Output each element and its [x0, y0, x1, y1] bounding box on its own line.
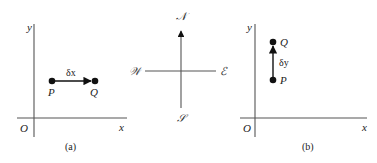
- panel-a-x-label: x: [118, 121, 124, 133]
- panel-b-p-label: P: [279, 74, 287, 86]
- diagram-canvas: y O x δx P Q (a) 𝒩 𝒲 ℰ 𝒮 y O x δy P Q (b…: [0, 0, 377, 163]
- compass-west-label: 𝒲: [129, 65, 143, 78]
- panel-b-origin-label: O: [243, 122, 251, 134]
- panel-b-caption: (b): [302, 141, 314, 153]
- panel-b-point-p: [270, 77, 277, 84]
- panel-b: y O x δy P Q (b): [240, 21, 367, 153]
- panel-a-vector-label: δx: [66, 67, 76, 78]
- compass: 𝒩 𝒲 ℰ 𝒮: [129, 10, 228, 125]
- panel-a-caption: (a): [65, 141, 76, 153]
- panel-a: y O x δx P Q (a): [17, 21, 127, 153]
- panel-b-x-label: x: [361, 121, 367, 133]
- compass-south-label: 𝒮: [177, 112, 189, 125]
- panel-b-point-q: [270, 39, 277, 46]
- panel-b-y-label: y: [246, 21, 252, 33]
- panel-a-point-q: [92, 78, 99, 85]
- panel-a-y-label: y: [26, 21, 32, 33]
- panel-b-vector-label: δy: [279, 57, 289, 68]
- panel-b-q-label: Q: [280, 36, 288, 48]
- panel-a-origin-label: O: [20, 122, 28, 134]
- panel-a-p-label: P: [47, 86, 55, 98]
- compass-east-label: ℰ: [220, 65, 228, 78]
- panel-a-q-label: Q: [90, 86, 98, 98]
- panel-a-point-p: [49, 78, 56, 85]
- compass-north-label: 𝒩: [176, 10, 190, 23]
